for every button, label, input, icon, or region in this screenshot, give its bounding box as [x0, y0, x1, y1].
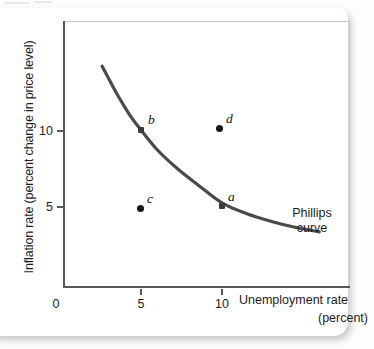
data-point-a[interactable]	[219, 203, 225, 209]
data-point-c[interactable]	[137, 205, 144, 212]
data-point-label-c: c	[147, 191, 153, 207]
data-point-label-b: b	[148, 112, 155, 128]
phillips-curve-line	[0, 0, 374, 349]
data-point-b[interactable]	[138, 127, 144, 133]
data-point-label-a: a	[228, 189, 235, 205]
chart-figure: Inflation rate (percent change in price …	[0, 0, 374, 349]
data-point-d[interactable]	[216, 125, 223, 132]
data-point-label-d: d	[226, 111, 233, 127]
phillips-curve-annotation-line2: curve	[281, 221, 343, 236]
phillips-curve-annotation-line1: Phillips	[281, 206, 343, 221]
phillips-curve-annotation: Phillips curve	[281, 206, 343, 236]
